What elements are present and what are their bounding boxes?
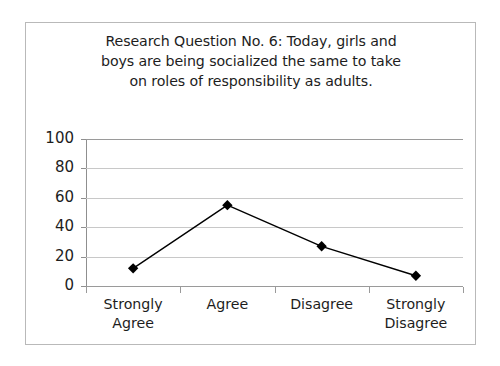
y-tick-mark-60 [81,198,86,199]
y-tick-label-40: 40 [26,219,74,234]
chart-card: Research Question No. 6: Today, girls an… [25,22,476,345]
x-category-label-1: Agree [180,295,274,314]
y-tick-label-60: 60 [26,190,74,205]
y-tick-label-0: 0 [26,278,74,293]
chart-screenshot: Research Question No. 6: Today, girls an… [0,0,500,366]
plot-area [86,139,463,286]
chart-title: Research Question No. 6: Today, girls an… [56,31,446,91]
y-tick-mark-80 [81,168,86,169]
gridline-20 [86,257,463,258]
x-tick-mark-4 [463,287,464,293]
y-tick-mark-40 [81,227,86,228]
x-tick-mark-0 [86,287,87,293]
x-tick-mark-3 [369,287,370,293]
x-category-label-3: Strongly Disagree [369,295,463,333]
y-tick-mark-100 [81,139,86,140]
x-category-label-0: Strongly Agree [86,295,180,333]
y-tick-label-20: 20 [26,249,74,264]
y-tick-label-100: 100 [26,131,74,146]
x-tick-mark-1 [180,287,181,293]
gridline-40 [86,227,463,228]
gridline-80 [86,168,463,169]
y-tick-mark-20 [81,257,86,258]
y-tick-label-80: 80 [26,160,74,175]
gridline-60 [86,198,463,199]
gridline-100 [86,139,463,140]
x-category-label-2: Disagree [275,295,369,314]
x-tick-mark-2 [275,287,276,293]
